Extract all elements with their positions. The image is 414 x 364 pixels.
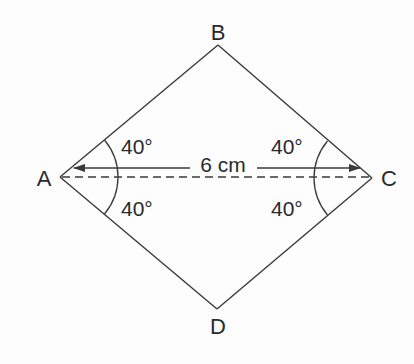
rhombus-figure: B A C D 6 cm 40° 40° 40° 40° (0, 0, 414, 364)
vertex-label-a: A (37, 166, 52, 191)
distance-label-ac: 6 cm (200, 153, 246, 176)
angle-arc-c-lower (314, 178, 328, 215)
angle-label-c-upper: 40° (271, 135, 303, 158)
diagram-canvas: B A C D 6 cm 40° 40° 40° 40° (0, 0, 414, 364)
vertex-label-c: C (381, 166, 397, 191)
vertex-label-d: D (210, 314, 226, 339)
angle-arc-a-upper (105, 140, 119, 177)
angle-label-c-lower: 40° (271, 197, 303, 220)
angle-label-a-upper: 40° (121, 135, 153, 158)
angle-arc-a-lower (105, 177, 119, 214)
angle-label-a-lower: 40° (121, 197, 153, 220)
vertex-label-b: B (211, 20, 226, 45)
angle-arc-c-upper (314, 141, 328, 178)
